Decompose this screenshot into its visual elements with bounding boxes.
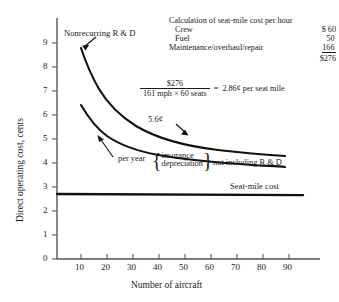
annotation-per-year: per year bbox=[118, 155, 145, 164]
formula-equals: = bbox=[214, 84, 219, 93]
calculation-row-crew: Crew $ 60 bbox=[166, 25, 336, 34]
annotation-depreciation: depreciation bbox=[162, 160, 203, 168]
y-tick-label-9: 9 bbox=[43, 37, 48, 47]
calculation-box: Calculation of seat-mile cost per hour C… bbox=[166, 16, 336, 63]
y-tick-label-1: 1 bbox=[43, 229, 48, 239]
calculation-row-maintenance-value: 166 bbox=[322, 43, 336, 53]
x-tick-label-40: 40 bbox=[153, 262, 162, 272]
formula-denominator: 161 mph × 60 seats bbox=[140, 88, 210, 98]
arrow-nonrecurring-rd bbox=[82, 37, 96, 51]
y-tick-label-5: 5 bbox=[43, 133, 48, 143]
arrow-value-5-6 bbox=[176, 124, 189, 136]
x-axis-title: Number of aircraft bbox=[131, 281, 202, 291]
calculation-row-fuel-value: 50 bbox=[326, 34, 336, 43]
x-tick-label-90: 90 bbox=[283, 262, 292, 272]
chart-figure: 0 1 2 3 4 5 6 7 8 9 10 20 30 40 50 60 70… bbox=[0, 0, 339, 302]
y-tick-label-2: 2 bbox=[43, 205, 48, 215]
y-tick-label-4: 4 bbox=[43, 157, 48, 167]
calculation-row-fuel: Fuel 50 bbox=[166, 34, 336, 43]
y-tick-label-3: 3 bbox=[43, 181, 48, 191]
y-tick-marks bbox=[52, 43, 57, 259]
annotation-insurance-depreciation-group: { insurance depreciation } bbox=[152, 152, 213, 169]
y-axis-title: Direct operating cost, cents bbox=[15, 118, 25, 222]
x-tick-label-50: 50 bbox=[179, 262, 188, 272]
annotation-not-including-rd: not including R & D bbox=[213, 159, 282, 168]
calculation-row-crew-value: $ 60 bbox=[322, 25, 336, 34]
y-tick-label-0: 0 bbox=[43, 253, 48, 263]
calculation-row-maintenance: Maintenance/overhaul/repair 166 bbox=[166, 43, 336, 53]
left-brace-icon: { bbox=[152, 155, 162, 166]
calculation-total: $276 bbox=[166, 54, 336, 63]
formula-numerator: $276 bbox=[140, 79, 210, 88]
y-tick-label-6: 6 bbox=[43, 109, 48, 119]
annotation-value-5-6: 5.6¢ bbox=[148, 115, 163, 124]
calculation-row-crew-name: Crew bbox=[175, 25, 199, 34]
x-tick-label-20: 20 bbox=[101, 262, 110, 272]
x-tick-marks bbox=[81, 254, 289, 259]
y-tick-label-8: 8 bbox=[43, 61, 48, 71]
calculation-title: Calculation of seat-mile cost per hour bbox=[166, 16, 336, 25]
x-tick-label-70: 70 bbox=[231, 262, 240, 272]
x-tick-label-80: 80 bbox=[257, 262, 266, 272]
calculation-row-fuel-name: Fuel bbox=[175, 34, 196, 43]
x-tick-label-10: 10 bbox=[75, 262, 84, 272]
annotation-seat-mile-cost: Seat-mile cost bbox=[230, 182, 279, 191]
y-tick-label-7: 7 bbox=[43, 85, 48, 95]
seat-mile-formula: $276 161 mph × 60 seats = 2.86¢ per seat… bbox=[140, 79, 285, 98]
formula-result: 2.86¢ per seat mile bbox=[222, 84, 284, 93]
x-tick-label-30: 30 bbox=[127, 262, 136, 272]
line-seat-mile-cost bbox=[57, 194, 303, 195]
annotation-nonrecurring-rd: Nonrecurring R & D bbox=[64, 29, 135, 38]
x-tick-label-60: 60 bbox=[205, 262, 214, 272]
right-brace-icon: } bbox=[203, 155, 213, 166]
calculation-row-maintenance-name: Maintenance/overhaul/repair bbox=[169, 43, 270, 53]
